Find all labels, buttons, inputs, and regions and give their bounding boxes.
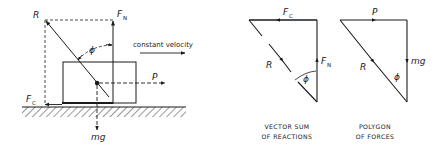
resultant-vector-mid bbox=[269, 44, 291, 72]
normal-subscript: N bbox=[327, 62, 331, 68]
resultant-label: R bbox=[33, 10, 39, 20]
resultant-label: R bbox=[360, 62, 366, 72]
vector-sum-diagram: F C F N R ϕ VECTOR SUM OF REACTIONS bbox=[249, 7, 331, 140]
force-diagrams: R F N ϕ constant velocity P F C mg F C F… bbox=[0, 0, 442, 152]
caption-line-1: VECTOR SUM bbox=[264, 123, 309, 130]
ground bbox=[22, 107, 186, 117]
block bbox=[63, 62, 136, 103]
angle-label: ϕ bbox=[394, 72, 400, 82]
angle-label: ϕ bbox=[303, 74, 309, 84]
polygon-of-forces-diagram: P mg R ϕ POLYGON OF FORCES bbox=[340, 7, 426, 140]
weight-label: mg bbox=[91, 132, 106, 142]
push-force-label: P bbox=[152, 72, 158, 82]
caption-line-2: OF FORCES bbox=[356, 133, 395, 140]
friction-force-subscript: C bbox=[32, 100, 36, 106]
resultant-vector-upper bbox=[249, 20, 262, 36]
resultant-label: R bbox=[266, 60, 272, 70]
weight-label: mg bbox=[411, 56, 426, 66]
motion-label: constant velocity bbox=[133, 41, 193, 49]
resultant-vector-lower bbox=[298, 82, 317, 102]
resultant-arrow bbox=[46, 21, 109, 97]
caption-line-1: POLYGON bbox=[359, 123, 391, 130]
friction-subscript: C bbox=[289, 13, 293, 19]
caption-line-2: OF REACTIONS bbox=[262, 133, 313, 140]
resultant-vector bbox=[340, 20, 407, 102]
push-label: P bbox=[372, 7, 378, 17]
free-body-diagram: R F N ϕ constant velocity P F C mg bbox=[22, 9, 193, 142]
angle-arc bbox=[78, 45, 112, 60]
normal-force-subscript: N bbox=[123, 15, 127, 21]
center-of-mass bbox=[95, 81, 99, 85]
angle-label: ϕ bbox=[89, 45, 95, 55]
